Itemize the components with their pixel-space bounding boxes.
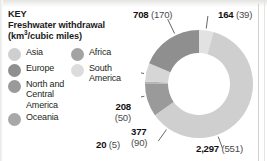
legend-label-asia: Asia <box>26 47 43 57</box>
callout-asia: 2,297 (551) <box>196 143 243 154</box>
callout-north-and-central-america-value: 377 <box>131 126 157 137</box>
callout-leader-line <box>141 68 144 74</box>
callout-africa-paren: (39) <box>236 9 252 20</box>
legend-item-africa[interactable]: Africa <box>71 47 136 61</box>
legend-item-asia[interactable]: Asia <box>8 47 71 61</box>
swatch-africa-icon <box>71 48 84 61</box>
legend-label-europe: Europe <box>26 63 54 73</box>
donut-chart-svg <box>141 16 261 148</box>
legend-item-europe[interactable]: Europe <box>8 63 71 77</box>
callout-leader-line <box>158 130 166 141</box>
page-edge-artifact-left <box>0 0 3 161</box>
callout-africa: 164 (39) <box>218 9 252 20</box>
callout-north-and-central-america-paren: (90) <box>131 137 157 148</box>
page-edge-artifact-top <box>0 0 267 7</box>
callout-europe-paren: (170) <box>151 9 172 20</box>
key-units-suffix: /cubic miles) <box>28 31 82 41</box>
legend-item-oceania[interactable]: Oceania <box>8 112 71 126</box>
key-units-prefix: (km <box>8 31 24 41</box>
key-subtitle-line2: (km3/cubic miles) <box>8 31 134 42</box>
swatch-north-and-central-america-icon <box>8 80 21 93</box>
callout-leader-line <box>168 19 175 33</box>
callout-europe: 708 (170) <box>133 9 172 20</box>
legend-label-north-and-central-america: North and Central America <box>26 79 64 110</box>
callout-oceania-value: 20 <box>96 139 106 150</box>
callout-oceania: 20 (5) <box>96 139 120 150</box>
swatch-europe-icon <box>8 64 21 77</box>
legend-item-north-and-central-america[interactable]: North and Central America <box>8 79 71 110</box>
donut-chart <box>141 16 261 148</box>
legend-column-1: Asia Europe North and Central America Oc… <box>8 47 71 128</box>
legend-item-south-america[interactable]: South America <box>71 63 136 84</box>
legend-label-africa: Africa <box>89 47 111 57</box>
page-edge-artifact-right <box>264 0 265 161</box>
callout-south-america-value: 208 <box>101 101 131 112</box>
chart-figure: KEY Freshwater withdrawal (km3/cubic mil… <box>0 0 267 161</box>
callout-oceania-paren: (5) <box>109 139 120 150</box>
callout-asia-paren: (551) <box>221 143 242 154</box>
swatch-asia-icon <box>8 48 21 61</box>
callout-africa-value: 164 <box>218 9 233 20</box>
swatch-south-america-icon <box>71 64 84 77</box>
callout-south-america: 208 (50) <box>101 101 131 123</box>
callout-north-and-central-america: 377 (90) <box>131 126 157 148</box>
donut-slices <box>141 16 253 148</box>
legend-label-south-america: South America <box>89 63 121 84</box>
callout-europe-value: 708 <box>133 9 148 20</box>
callout-asia-value: 2,297 <box>196 143 219 154</box>
legend-label-oceania: Oceania <box>26 112 58 122</box>
legend-heading-block: KEY Freshwater withdrawal (km3/cubic mil… <box>8 9 134 43</box>
callout-leader-line <box>206 16 208 28</box>
callout-south-america-paren: (50) <box>101 112 131 123</box>
donut-slice-europe[interactable] <box>149 30 199 72</box>
callout-leader-line <box>141 96 144 102</box>
swatch-oceania-icon <box>8 113 21 126</box>
key-heading: KEY <box>8 9 134 20</box>
